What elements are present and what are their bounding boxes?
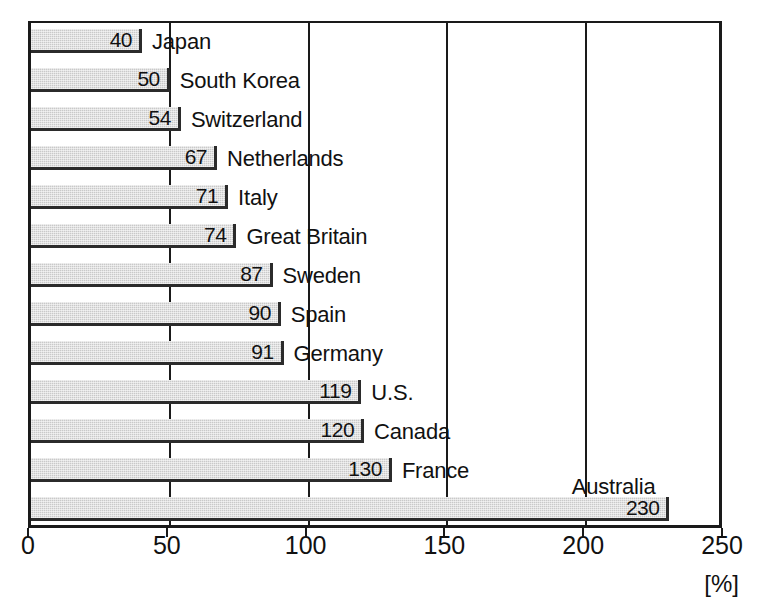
bar-france: 130 (31, 458, 392, 482)
bar-value-label: 130 (348, 458, 382, 479)
bar-spain: 90 (31, 302, 281, 326)
bar-category-label: Australia (572, 476, 656, 498)
bar-row: 87Sweden (31, 257, 719, 296)
bar-row: 40Japan (31, 23, 719, 62)
bar-category-label: Switzerland (191, 109, 303, 131)
bar-netherlands: 67 (31, 146, 217, 170)
bar-row: 50South Korea (31, 62, 719, 101)
bar-row: 67Netherlands (31, 140, 719, 179)
bar-canada: 120 (31, 419, 364, 443)
bar-value-label: 40 (110, 29, 132, 50)
bar-category-label: Great Britain (246, 226, 367, 248)
x-tick-label-250: 250 (701, 533, 743, 558)
bar-category-label: Italy (238, 187, 277, 209)
bar-row: 54Switzerland (31, 101, 719, 140)
bar-category-label: Sweden (283, 265, 361, 287)
bar-category-label: Netherlands (227, 148, 343, 170)
bar-row: 71Italy (31, 179, 719, 218)
bar-south-korea: 50 (31, 68, 170, 92)
bar-row: 91Germany (31, 335, 719, 374)
x-tick-label-50: 50 (153, 533, 181, 558)
bar-value-label: 67 (185, 146, 207, 167)
bar-value-label: 50 (137, 68, 159, 89)
plot-area: 40Japan50South Korea54Switzerland67Nethe… (28, 21, 722, 528)
x-tick-label-150: 150 (424, 533, 466, 558)
bar-germany: 91 (31, 341, 284, 365)
bar-category-label: Germany (294, 343, 383, 365)
x-tick-label-100: 100 (285, 533, 327, 558)
axis-unit-label: [%] (704, 572, 739, 596)
bar-value-label: 87 (240, 263, 262, 284)
bar-category-label: South Korea (180, 70, 300, 92)
bar-category-label: Canada (374, 421, 450, 443)
bar-australia: 230 (31, 497, 669, 521)
bar-great-britain: 74 (31, 224, 236, 248)
bar-value-label: 119 (319, 380, 351, 401)
bar-switzerland: 54 (31, 107, 181, 131)
x-tick-label-200: 200 (562, 533, 604, 558)
bar-value-label: 120 (321, 419, 355, 440)
bar-value-label: 74 (204, 224, 226, 245)
bar-value-label: 90 (248, 302, 270, 323)
bar-category-label: France (402, 460, 469, 482)
bar-sweden: 87 (31, 263, 273, 287)
bar-value-label: 91 (251, 341, 273, 362)
bar-row: 90Spain (31, 296, 719, 335)
bar-row: 119U.S. (31, 374, 719, 413)
bar-italy: 71 (31, 185, 228, 209)
bar-category-label: Japan (152, 31, 211, 53)
bar-chart: 40Japan50South Korea54Switzerland67Nethe… (0, 0, 757, 613)
bar-row: 74Great Britain (31, 218, 719, 257)
bar-row: 230Australia (31, 491, 719, 530)
bar-row: 120Canada (31, 413, 719, 452)
bar-japan: 40 (31, 29, 142, 53)
bar-value-label: 71 (196, 185, 218, 206)
bar-category-label: U.S. (371, 382, 413, 404)
bar-rows: 40Japan50South Korea54Switzerland67Nethe… (31, 23, 719, 525)
bar-category-label: Spain (291, 304, 346, 326)
x-tick-label-0: 0 (21, 533, 35, 558)
bar-value-label: 54 (149, 107, 171, 128)
bar-u-s: 119 (31, 380, 361, 404)
bar-value-label: 230 (626, 497, 660, 518)
